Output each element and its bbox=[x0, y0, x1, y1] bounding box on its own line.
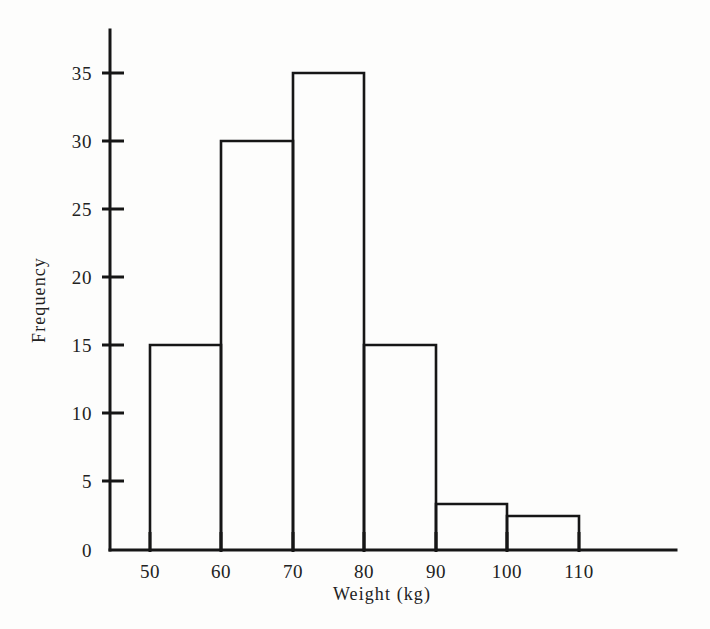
x-tick-label-110: 110 bbox=[564, 561, 594, 582]
y-tick-label-15: 15 bbox=[72, 335, 92, 356]
y-tick-label-0: 0 bbox=[82, 540, 92, 561]
y-tick-label-25: 25 bbox=[72, 199, 92, 220]
y-axis-ticks bbox=[102, 73, 124, 481]
y-tick-label-5: 5 bbox=[82, 471, 92, 492]
bar-60-70 bbox=[221, 141, 293, 550]
x-tick-label-100: 100 bbox=[492, 561, 522, 582]
histogram-svg: 35 30 25 20 15 10 5 0 50 bbox=[0, 0, 710, 629]
y-tick-label-30: 30 bbox=[72, 131, 92, 152]
bar-80-90 bbox=[364, 345, 436, 550]
x-tick-label-50: 50 bbox=[140, 561, 160, 582]
y-tick-label-20: 20 bbox=[72, 267, 92, 288]
y-axis-title: Frequency bbox=[29, 257, 49, 343]
bar-90-100 bbox=[436, 504, 507, 550]
bar-50-60 bbox=[150, 345, 221, 550]
x-tick-label-60: 60 bbox=[211, 561, 231, 582]
plot-area: 35 30 25 20 15 10 5 0 50 bbox=[0, 0, 710, 629]
x-axis-title: Weight (kg) bbox=[333, 584, 431, 605]
y-tick-label-35: 35 bbox=[72, 63, 92, 84]
x-tick-label-90: 90 bbox=[426, 561, 446, 582]
bar-100-110 bbox=[507, 516, 579, 550]
histogram-figure: 35 30 25 20 15 10 5 0 50 bbox=[0, 0, 710, 629]
y-tick-label-10: 10 bbox=[72, 403, 92, 424]
histogram-bars bbox=[150, 73, 579, 550]
x-axis-tick-labels: 50 60 70 80 90 100 110 bbox=[140, 561, 594, 582]
x-tick-label-80: 80 bbox=[354, 561, 374, 582]
y-axis-tick-labels: 35 30 25 20 15 10 5 0 bbox=[72, 63, 92, 561]
bar-70-80 bbox=[293, 73, 364, 550]
x-tick-label-70: 70 bbox=[283, 561, 303, 582]
